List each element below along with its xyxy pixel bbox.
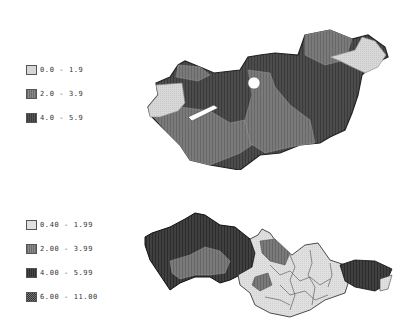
legend-item: 4.0 - 5.9 (26, 112, 83, 123)
legend-swatch (26, 65, 37, 75)
legend-czechoslovakia: 0.40 - 1.99 2.00 - 3.99 4.00 - 5.99 6.00… (26, 219, 98, 315)
legend-swatch (26, 292, 37, 302)
legend-swatch (26, 244, 37, 254)
legend-label: 2.0 - 3.9 (40, 90, 83, 98)
legend-item: 2.0 - 3.9 (26, 88, 83, 99)
legend-label: 0.0 - 1.9 (40, 66, 83, 74)
legend-label: 4.0 - 5.9 (40, 114, 83, 122)
legend-swatch (26, 89, 37, 99)
legend-swatch (26, 113, 37, 123)
legend-item: 4.00 - 5.99 (26, 267, 98, 278)
legend-hungary: 0.0 - 1.9 2.0 - 3.9 4.0 - 5.9 (26, 64, 83, 136)
map-hungary (140, 25, 400, 170)
legend-label: 6.00 - 11.00 (40, 293, 98, 301)
legend-item: 0.40 - 1.99 (26, 219, 98, 230)
legend-swatch (26, 268, 37, 278)
legend-swatch (26, 220, 37, 230)
legend-item: 2.00 - 3.99 (26, 243, 98, 254)
legend-label: 2.00 - 3.99 (40, 245, 93, 253)
legend-item: 6.00 - 11.00 (26, 291, 98, 302)
map-czechoslovakia (140, 205, 400, 330)
legend-item: 0.0 - 1.9 (26, 64, 83, 75)
legend-label: 0.40 - 1.99 (40, 221, 93, 229)
legend-label: 4.00 - 5.99 (40, 269, 93, 277)
